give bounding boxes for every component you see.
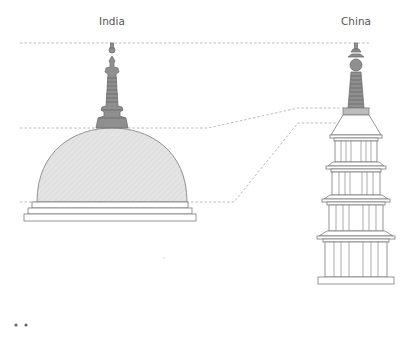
comparison-diagram (0, 0, 410, 338)
stupa-step-3 (24, 214, 196, 221)
pagoda-tier-3 (322, 195, 390, 231)
pagoda-base-upper (318, 277, 394, 284)
stupa-step-2 (28, 208, 192, 214)
stupa-spire (96, 43, 128, 128)
pagoda-spire (343, 43, 369, 115)
guide-line-spire-base (20, 108, 370, 128)
pagoda-tier-4 (317, 231, 395, 277)
india-stupa (24, 43, 196, 221)
pagoda-tier-1 (330, 115, 382, 162)
pager-dots[interactable] (14, 323, 27, 326)
pager-dot-1[interactable] (14, 323, 17, 326)
pagoda-tier-2 (326, 162, 386, 195)
stupa-dome (37, 128, 187, 202)
pager-dot-2[interactable] (24, 323, 27, 326)
speck (163, 257, 165, 259)
china-pagoda (317, 43, 395, 284)
stupa-step-1 (32, 202, 188, 208)
